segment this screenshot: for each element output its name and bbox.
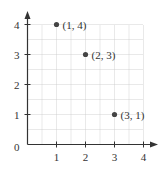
- x-tick-label: 4: [141, 151, 147, 163]
- scatter-chart: 123412340(1, 4)(2, 3)(3, 1): [0, 0, 166, 169]
- x-axis-arrow-icon: [150, 142, 158, 148]
- y-tick-label: 1: [14, 109, 20, 121]
- data-point: [112, 112, 117, 117]
- origin-label: 0: [14, 141, 20, 153]
- y-tick-label: 3: [14, 49, 20, 61]
- x-tick-label: 2: [83, 151, 89, 163]
- y-tick-label: 2: [14, 79, 20, 91]
- x-tick-label: 1: [54, 151, 60, 163]
- x-tick-label: 3: [112, 151, 118, 163]
- data-point-label: (2, 3): [92, 49, 116, 62]
- data-point-label: (1, 4): [63, 19, 87, 32]
- data-point: [54, 22, 59, 27]
- y-tick-label: 4: [14, 19, 20, 31]
- data-point: [83, 52, 88, 57]
- y-axis-arrow-icon: [25, 11, 31, 19]
- data-point-label: (3, 1): [121, 109, 145, 122]
